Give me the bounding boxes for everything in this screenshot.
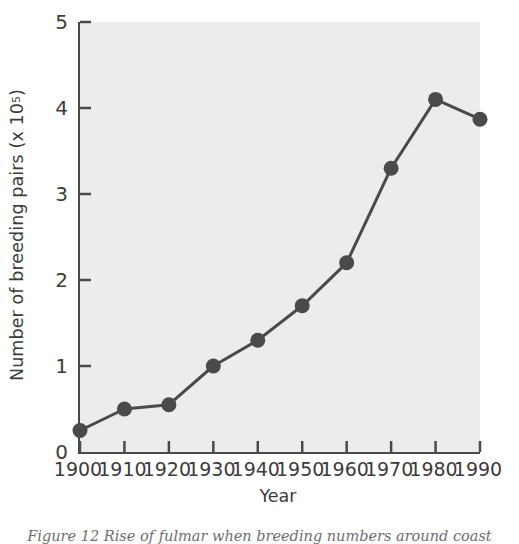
data-point [73, 423, 88, 438]
y-axis-title-text: Number of breeding pairs (x 10 [7, 103, 27, 381]
y-tick-label: 1 [10, 354, 68, 378]
y-axis-title: Number of breeding pairs (x 105) [0, 0, 34, 470]
figure-caption: Figure 12 Rise of fulmar when breeding n… [0, 528, 519, 544]
data-marker-group [73, 92, 488, 438]
data-point [428, 92, 443, 107]
y-tick-label: 5 [10, 10, 68, 34]
chart-svg [80, 22, 480, 452]
data-point [473, 112, 488, 127]
y-tick-label: 4 [10, 96, 68, 120]
data-point [206, 359, 221, 374]
y-tick-label: 3 [10, 182, 68, 206]
data-point [339, 255, 354, 270]
data-point [295, 298, 310, 313]
data-point [384, 161, 399, 176]
data-point [250, 333, 265, 348]
tick-mark-group [80, 22, 480, 452]
data-point [117, 402, 132, 417]
data-point [161, 397, 176, 412]
y-axis-title-tail: ) [7, 89, 27, 96]
plot-area [78, 22, 480, 454]
y-tick-label: 2 [10, 268, 68, 292]
x-axis-title: Year [78, 486, 478, 506]
data-line [80, 99, 480, 430]
x-tick-label: 1990 [443, 458, 513, 480]
